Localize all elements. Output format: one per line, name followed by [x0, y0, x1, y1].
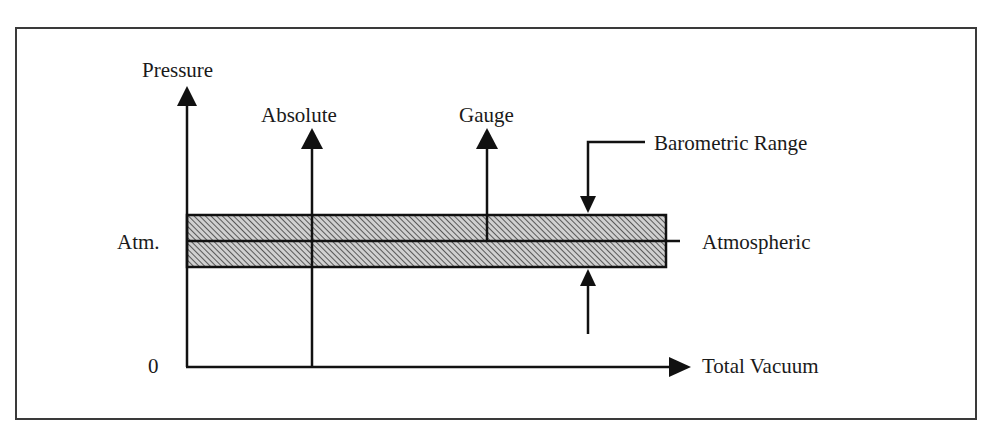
- arrowhead-right-icon: [669, 357, 691, 377]
- absolute-label: Absolute: [261, 105, 337, 126]
- pressure-axis-label: Pressure: [142, 60, 213, 81]
- arrowhead-up-icon: [580, 269, 596, 286]
- arrowhead-up-icon: [301, 128, 323, 149]
- barometric-range-bottom-pointer: [580, 269, 596, 334]
- arrowhead-up-icon: [177, 86, 197, 106]
- vacuum-axis: [186, 357, 691, 377]
- origin-label: 0: [148, 356, 159, 377]
- atmospheric-label: Atmospheric: [702, 232, 810, 253]
- arrowhead-up-icon: [476, 128, 498, 149]
- arrowhead-down-icon: [580, 196, 596, 213]
- gauge-label: Gauge: [459, 105, 514, 126]
- barometric-range-label: Barometric Range: [654, 133, 807, 154]
- atm-tick-label: Atm.: [117, 232, 160, 253]
- total-vacuum-label: Total Vacuum: [702, 356, 819, 377]
- barometric-range-top-pointer: [580, 142, 645, 213]
